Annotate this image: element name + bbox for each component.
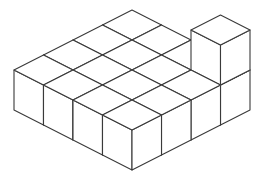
cube <box>103 100 162 170</box>
cube-stack-drawing <box>0 0 258 185</box>
isometric-figure <box>0 0 258 185</box>
